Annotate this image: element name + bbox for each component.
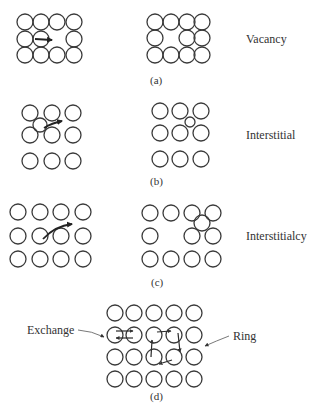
interstitialcy-before-lattice [10,204,91,267]
interstitial-atom-before [33,118,47,132]
lattice-atom [53,251,69,267]
lattice-atom [142,228,158,244]
caption-b: (b) [150,175,163,188]
lattice-atom [193,125,209,141]
interstitialcy-label: Interstitialcy [246,229,307,243]
lattice-atom [142,205,158,221]
lattice-atom [146,371,162,387]
lattice-atom [107,305,123,321]
interstitialcy-atom-after [194,215,210,231]
lattice-atom [66,14,82,30]
lattice-atom [126,305,142,321]
interstitialcy-after-lattice [142,205,221,267]
lattice-atom [147,14,163,30]
lattice-atom [205,251,221,267]
lattice-atom [186,305,202,321]
lattice-atom [65,105,81,121]
lattice-atom [44,153,60,169]
lattice-atom [166,327,182,343]
lattice-atom [194,47,210,63]
lattice-atom [186,349,202,365]
panel-d: Exchange Ring (d) [27,305,256,403]
lattice-atom [44,105,60,121]
caption-c: (c) [151,276,164,289]
interstitial-after-lattice [152,103,209,167]
lattice-atom [184,251,200,267]
lattice-atom [193,151,209,167]
lattice-atom [166,305,182,321]
lattice-atom [107,327,123,343]
lattice-atom [152,103,168,119]
lattice-atom [172,103,188,119]
lattice-atom [75,251,91,267]
lattice-atom [66,47,82,63]
panel-a: Vacancy (a) [17,14,287,87]
lattice-atom [126,371,142,387]
vacancy-jump-arrow [35,39,52,40]
lattice-atom [152,151,168,167]
lattice-atom [163,205,179,221]
lattice-atom [163,251,179,267]
lattice-atom [33,14,49,30]
lattice-atom [147,47,163,63]
lattice-atom [179,47,195,63]
lattice-atom [194,30,210,46]
lattice-atom [142,251,158,267]
lattice-atom [163,47,179,63]
lattice-atom [107,349,123,365]
lattice-atom [75,228,91,244]
lattice-atom [152,125,168,141]
lattice-atom [186,327,202,343]
lattice-atom [10,204,26,220]
caption-a: (a) [150,74,163,87]
lattice-atom [186,371,202,387]
lattice-atom [17,31,33,47]
lattice-atom [194,14,210,30]
lattice-atom [32,251,48,267]
exchange-arrows [116,331,133,338]
ring-label: Ring [233,329,256,343]
interstitial-before-lattice [22,105,81,169]
lattice-atom [49,47,65,63]
lattice-atom [33,47,49,63]
lattice-atom [172,151,188,167]
lattice-atom [126,349,142,365]
lattice-atom [184,205,200,221]
lattice-atom [10,228,26,244]
interstitial-atom-after [185,117,195,127]
lattice-atom [179,14,195,30]
lattice-atom [75,204,91,220]
panel-b: Interstitial (b) [22,103,296,188]
lattice-atom [17,14,33,30]
exchange-leader-line [78,330,104,337]
lattice-atom [179,30,195,46]
caption-d: (d) [150,390,163,403]
lattice-atom [126,327,142,343]
lattice-atom [107,371,123,387]
lattice-atom [65,153,81,169]
lattice-atom [17,47,33,63]
lattice-atom [147,30,163,46]
exchange-ring-lattice [107,305,202,387]
lattice-atom [146,349,162,365]
vacancy-after-lattice [147,14,210,63]
lattice-atom [22,153,38,169]
lattice-atom [32,204,48,220]
interstitial-label: Interstitial [246,128,296,142]
lattice-atom [22,127,38,143]
lattice-atom [205,205,221,221]
lattice-atom [49,14,65,30]
panel-c: Interstitialcy (c) [10,204,307,289]
lattice-atom [22,105,38,121]
lattice-atom [53,228,69,244]
lattice-atom [193,103,209,119]
lattice-atom [146,327,162,343]
ring-leader-line [205,336,229,346]
lattice-atom [66,31,82,47]
lattice-atom [146,305,162,321]
lattice-atom [65,127,81,143]
lattice-atom [53,204,69,220]
diffusion-mechanisms-figure: Vacancy (a) Interstitial (b) Interstitia… [0,0,322,414]
vacancy-label: Vacancy [246,32,287,46]
lattice-atom [163,14,179,30]
